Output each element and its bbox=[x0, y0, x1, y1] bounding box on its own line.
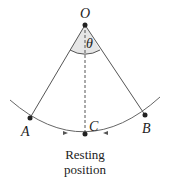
point-O bbox=[83, 23, 88, 28]
string-OA bbox=[30, 25, 85, 118]
caption-line2: position bbox=[64, 162, 106, 177]
string-OB bbox=[85, 25, 145, 115]
point-A bbox=[28, 116, 33, 121]
caption-line1: Resting bbox=[65, 147, 105, 162]
label-C: C bbox=[89, 119, 99, 134]
point-B bbox=[143, 113, 148, 118]
label-B: B bbox=[142, 121, 151, 136]
arrow-right-icon bbox=[63, 131, 68, 135]
pendulum-diagram: O θ A B C Resting position bbox=[0, 0, 169, 181]
angle-sector bbox=[70, 25, 100, 54]
label-O: O bbox=[80, 6, 90, 21]
point-C bbox=[83, 132, 88, 137]
arrow-left-icon bbox=[103, 131, 108, 135]
label-theta: θ bbox=[86, 36, 93, 51]
label-A: A bbox=[20, 124, 30, 139]
